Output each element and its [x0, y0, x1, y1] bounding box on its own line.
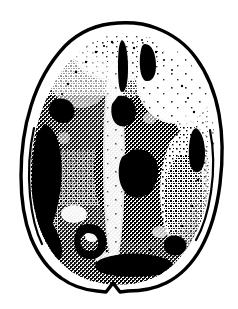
figure-root: Axial head scan line illustration: [0, 0, 238, 309]
axial-brain-scan-illustration: [0, 0, 238, 309]
